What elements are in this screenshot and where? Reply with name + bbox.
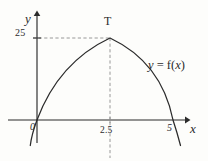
function-label-eq: = f( <box>154 58 176 72</box>
function-label: y = f(x) <box>148 59 185 72</box>
x-tick-label-5: 5 <box>167 123 172 133</box>
function-label-close: ) <box>181 58 185 72</box>
x-axis-label: x <box>190 122 196 135</box>
x-tick-label-2point5: 2.5 <box>100 126 112 136</box>
parabola-figure: y 25 T y = f(x) 0 2.5 5 x <box>0 0 208 161</box>
y-tick-label-25: 25 <box>15 28 25 38</box>
guide-lines-group <box>33 38 110 158</box>
y-axis-arrowhead <box>34 11 41 17</box>
tick-marks-group <box>33 38 110 123</box>
y-axis-label: y <box>25 12 31 25</box>
vertex-label-T: T <box>104 15 111 27</box>
origin-label: 0 <box>30 122 35 132</box>
